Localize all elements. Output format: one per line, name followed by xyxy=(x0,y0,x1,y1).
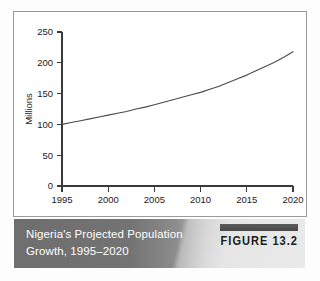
x-axis-tick-label: 2015 xyxy=(236,194,257,205)
chart-panel: 050100150200250199520002005201020152020M… xyxy=(13,11,307,217)
figure-caption-text: Nigeria's Projected Population Growth, 1… xyxy=(26,226,216,259)
x-axis-tick-label: 1995 xyxy=(51,194,72,205)
caption-line-2: Growth, 1995–2020 xyxy=(26,243,216,260)
y-axis-tick-label: 200 xyxy=(37,57,53,68)
figure-caption-bar: Nigeria's Projected Population Growth, 1… xyxy=(14,219,305,268)
y-axis-tick-label: 0 xyxy=(48,180,53,191)
x-axis-tick-label: 2000 xyxy=(98,194,119,205)
y-axis-tick-label: 250 xyxy=(37,26,53,37)
data-series-line xyxy=(62,52,293,125)
x-axis-tick-label: 2005 xyxy=(144,194,165,205)
y-axis-title: Millions xyxy=(23,93,34,125)
figure-badge-label: FIGURE 13.2 xyxy=(219,234,298,248)
y-axis-tick-label: 50 xyxy=(42,150,53,161)
x-axis-tick-label: 2020 xyxy=(282,194,303,205)
figure-root: 050100150200250199520002005201020152020M… xyxy=(0,0,320,281)
figure-number-badge: FIGURE 13.2 xyxy=(212,224,298,248)
y-axis-tick-label: 150 xyxy=(37,88,53,99)
y-axis-tick-label: 100 xyxy=(37,119,53,130)
caption-line-1: Nigeria's Projected Population xyxy=(26,226,216,243)
badge-accent-bar xyxy=(220,224,298,231)
population-line-chart: 050100150200250199520002005201020152020M… xyxy=(14,12,308,218)
x-axis-tick-label: 2010 xyxy=(190,194,211,205)
